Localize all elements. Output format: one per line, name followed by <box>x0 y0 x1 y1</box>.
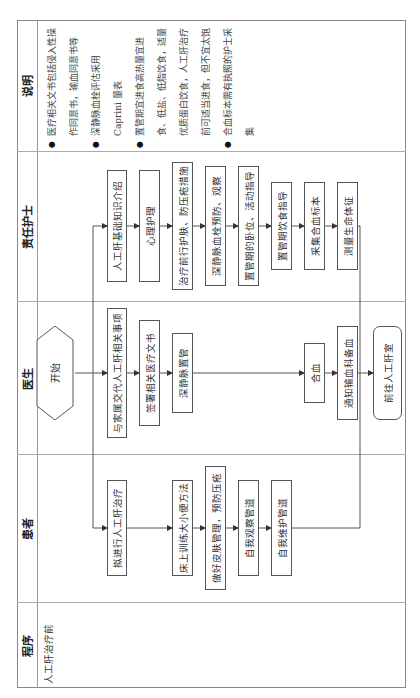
patient-step: 床上训练大小便方法 <box>172 480 193 576</box>
nurse-step: 置管期饮食指导 <box>271 182 292 270</box>
note-item: 医疗相关文书包括侵入性操作同意书，输血同意书等 <box>41 24 85 148</box>
note-item: 置管期宜进食高热量宜进食、低盐、低脂饮食，适量优质蛋白饮食，人工肝治疗前可适当进… <box>129 24 217 148</box>
doctor-step: 与家属交代人工肝相关事项 <box>107 308 127 438</box>
svg-text:开始: 开始 <box>49 363 61 383</box>
patient-step: 做好皮肤管理，预防压疮 <box>205 466 226 590</box>
doctor-step: 通知输血科备血 <box>337 326 358 420</box>
end-node: 前往人工肝室 <box>373 326 402 420</box>
doctor-step: 合血 <box>304 343 325 403</box>
start-node: 开始 <box>35 326 75 420</box>
note-item: 深静脉血栓评估采用 Caprini 量表 <box>85 24 129 148</box>
note-item: 合血标本需有执照的护士采集 <box>217 24 261 148</box>
flowchart-table: 程序 患者 医生 责任护士 说明 人工肝治疗前 <box>17 20 406 688</box>
nurse-step: 人工肝基础知识介绍 <box>107 170 127 282</box>
patient-step: 自我维护管道 <box>271 480 292 576</box>
nurse-step: 深静脉血栓预防、观察 <box>205 166 226 286</box>
patient-step: 自我观察管道 <box>238 480 259 576</box>
doctor-step: 签署相关医疗文书 <box>139 320 160 426</box>
patient-step: 拟进行人工肝治疗 <box>107 480 127 576</box>
nurse-step: 治疗前行护肤、防压疮措施 <box>172 162 193 290</box>
nurse-step: 测量生命体征 <box>337 182 358 270</box>
nurse-step: 置管期的卧位、活动指导 <box>238 166 259 286</box>
notes-list: 医疗相关文书包括侵入性操作同意书，输血同意书等 深静脉血栓评估采用 Caprin… <box>41 24 261 148</box>
nurse-step: 采集合血标本 <box>304 182 325 270</box>
nurse-step: 心理护理 <box>139 170 160 282</box>
doctor-step: 深静脉置管 <box>172 333 193 413</box>
